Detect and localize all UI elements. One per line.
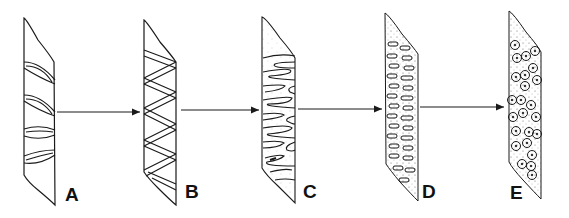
stage-b-cell	[144, 20, 176, 205]
stage-label-e: E	[510, 183, 523, 202]
stage-label-c: C	[303, 182, 317, 201]
stage-c-cell	[262, 17, 295, 203]
diagram-canvas	[0, 0, 569, 218]
stage-label-d: D	[422, 182, 436, 201]
stage-label-a: A	[65, 185, 79, 204]
stage-label-b: B	[185, 182, 199, 201]
stage-e-cell	[508, 11, 542, 199]
stage-a-cell	[24, 18, 55, 205]
stage-d-cell	[385, 13, 418, 201]
